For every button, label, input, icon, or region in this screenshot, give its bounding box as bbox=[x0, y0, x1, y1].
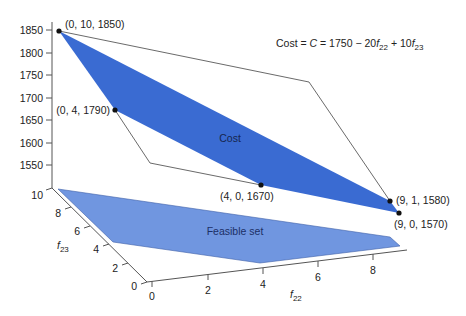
point-label-9-0-1570: (9, 0, 1570) bbox=[394, 218, 448, 230]
tick-1550: 1550 bbox=[20, 159, 44, 171]
point-label-9-1-1580: (9, 1, 1580) bbox=[396, 194, 450, 206]
cost-region-label: Cost bbox=[219, 132, 241, 144]
vertex-9-1-1580 bbox=[387, 198, 392, 203]
tick-1750: 1750 bbox=[20, 69, 44, 81]
f22-tick-6: 6 bbox=[315, 271, 321, 283]
vertex-0-10-1850 bbox=[56, 28, 61, 33]
f23-tick-4: 4 bbox=[93, 243, 99, 255]
point-label-0-10-1850: (0, 10, 1850) bbox=[65, 18, 125, 30]
tick-1650: 1650 bbox=[20, 114, 44, 126]
f22-tick-0: 0 bbox=[149, 290, 155, 302]
f22-tick-2: 2 bbox=[205, 284, 211, 296]
tick-1600: 1600 bbox=[20, 137, 44, 149]
f22-tick-8: 8 bbox=[370, 264, 376, 276]
f22-axis-label: f22 bbox=[290, 288, 302, 303]
tick-1850: 1850 bbox=[20, 24, 44, 36]
f23-tick-0: 0 bbox=[131, 280, 137, 292]
cost-equation: Cost = C = 1750 − 20f22 + 10f23 bbox=[276, 37, 424, 52]
cost-surface-figure: 1850 1800 1750 1700 1650 1600 1550 10 8 … bbox=[0, 0, 466, 316]
point-label-0-4-1790: (0, 4, 1790) bbox=[56, 104, 110, 116]
vertex-4-0-1670 bbox=[258, 182, 263, 187]
f22-tick-4: 4 bbox=[260, 278, 266, 290]
vertex-9-0-1570 bbox=[396, 210, 401, 215]
f23-tick-2: 2 bbox=[112, 262, 118, 274]
point-label-4-0-1670: (4, 0, 1670) bbox=[220, 190, 274, 202]
tick-1700: 1700 bbox=[20, 92, 44, 104]
f23-axis-label: f23 bbox=[57, 239, 69, 254]
feasible-set-label: Feasible set bbox=[207, 225, 264, 237]
cost-axis-ticks bbox=[46, 30, 52, 165]
cost-surface-region bbox=[59, 31, 399, 213]
f23-tick-6: 6 bbox=[74, 225, 80, 237]
f23-tick-10: 10 bbox=[31, 189, 43, 201]
f23-tick-8: 8 bbox=[55, 207, 61, 219]
vertex-0-4-1790 bbox=[112, 107, 117, 112]
tick-1800: 1800 bbox=[20, 47, 44, 59]
